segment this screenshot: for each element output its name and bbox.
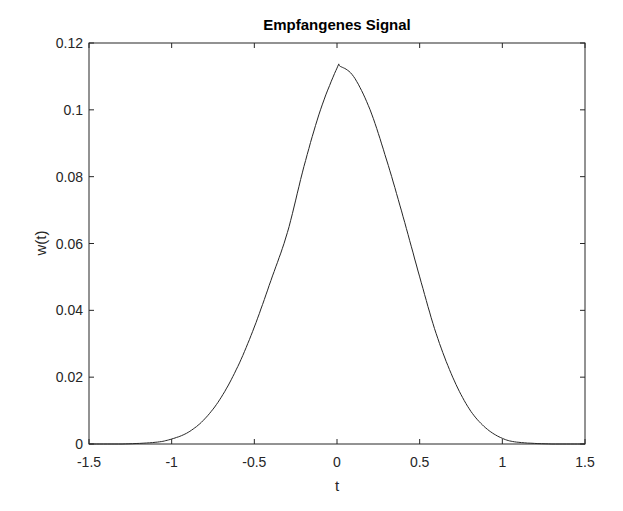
x-tick-label: 1 (498, 454, 506, 470)
chart-figure: -1.5-1-0.500.511.5 00.020.040.060.080.10… (0, 0, 623, 511)
y-tick-label: 0 (75, 436, 83, 452)
x-tick-labels: -1.5-1-0.500.511.5 (77, 454, 595, 470)
x-tick-label: 0.5 (410, 454, 430, 470)
x-axis-label: t (335, 477, 340, 494)
x-tick-label: 1.5 (575, 454, 595, 470)
x-tick-label: -1.5 (77, 454, 101, 470)
y-tick-label: 0.1 (64, 102, 84, 118)
x-tick-label: -0.5 (242, 454, 266, 470)
axes-background (89, 43, 585, 444)
y-tick-labels: 00.020.040.060.080.10.12 (56, 35, 83, 452)
y-axis-label: w(t) (32, 231, 49, 257)
y-tick-label: 0.08 (56, 169, 83, 185)
chart-title: Empfangenes Signal (263, 16, 411, 33)
y-tick-label: 0.12 (56, 35, 83, 51)
y-tick-label: 0.06 (56, 236, 83, 252)
y-tick-label: 0.02 (56, 369, 83, 385)
y-tick-label: 0.04 (56, 302, 83, 318)
x-tick-label: 0 (333, 454, 341, 470)
x-tick-label: -1 (165, 454, 178, 470)
plot-area (89, 43, 585, 444)
